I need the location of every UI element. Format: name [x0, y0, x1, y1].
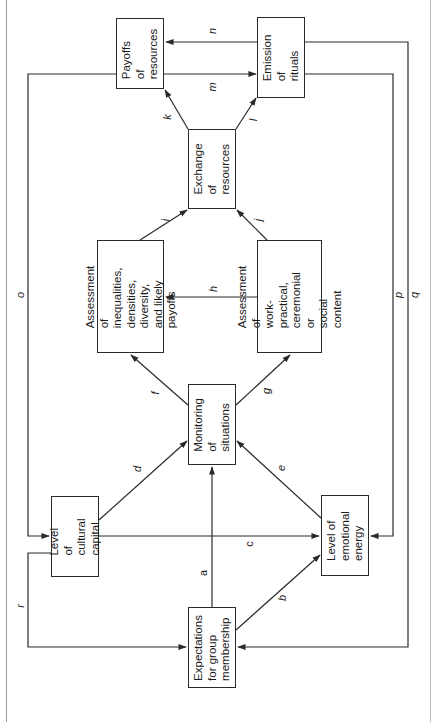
edge-label-p: p — [392, 292, 404, 298]
edge-label-e: e — [275, 465, 287, 471]
edge-g — [236, 355, 290, 405]
node-exchange-label: Exchange of resources — [192, 143, 233, 194]
edge-d — [99, 441, 187, 520]
edge-j — [237, 210, 267, 240]
edge-label-f: f — [149, 391, 161, 394]
node-assess-content-label: Assessment of work-practical, ceremonial… — [236, 265, 344, 328]
node-cultural-capital-label: Level of cultural capital — [48, 518, 102, 555]
node-emission-label: Emission of rituals — [261, 34, 302, 81]
edge-label-j: j — [252, 219, 264, 221]
edge-label-m: m — [206, 82, 218, 91]
node-payoffs-label: Payoffs of resources — [120, 28, 161, 79]
edge-k — [165, 90, 188, 129]
edge-label-h: h — [207, 286, 219, 292]
node-emotional-energy-label: Level of emotional energy — [325, 511, 366, 561]
node-assess-content: Assessment of work-practical, ceremonial… — [257, 240, 322, 353]
node-expectations-label: Expectations for group membership — [192, 615, 233, 681]
edge-e — [237, 441, 321, 518]
node-assess-inequalities-label: Assessment of inequalities, densities, d… — [83, 265, 178, 328]
node-monitoring-label: Monitoring of situations — [192, 398, 233, 452]
edge-label-l: l — [247, 119, 259, 121]
edge-label-g: g — [260, 388, 272, 394]
edge-label-o: o — [14, 292, 26, 298]
edge-label-a: a — [197, 570, 209, 576]
node-exchange: Exchange of resources — [188, 129, 236, 209]
node-monitoring: Monitoring of situations — [188, 384, 236, 465]
node-payoffs: Payoffs of resources — [116, 18, 164, 89]
edge-label-k: k — [161, 114, 173, 120]
edge-f — [131, 355, 188, 405]
edge-label-c: c — [243, 541, 255, 547]
edge-label-b: b — [276, 595, 288, 601]
edge-b — [236, 555, 320, 630]
node-assess-inequalities: Assessment of inequalities, densities, d… — [97, 240, 164, 353]
edge-i — [140, 210, 187, 240]
node-cultural-capital: Level of cultural capital — [51, 496, 99, 577]
edge-label-r: r — [14, 604, 26, 608]
node-emission: Emission of rituals — [257, 17, 305, 98]
edge-label-n: n — [206, 28, 218, 34]
edge-l — [236, 98, 256, 129]
node-emotional-energy: Level of emotional energy — [321, 495, 369, 576]
edge-label-q: q — [408, 292, 420, 298]
node-expectations: Expectations for group membership — [188, 607, 236, 688]
edge-label-i: i — [159, 219, 171, 221]
edge-label-d: d — [131, 466, 143, 472]
